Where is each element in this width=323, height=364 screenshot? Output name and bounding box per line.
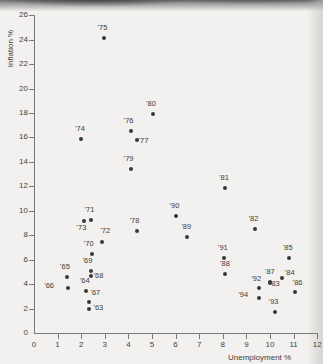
y-tick-label: 10: [12, 207, 28, 215]
data-point-label: '84: [285, 269, 295, 277]
data-point: [185, 235, 189, 239]
data-point-label: '63: [93, 304, 103, 312]
y-tick-mark: [29, 211, 34, 212]
x-tick-label: 2: [73, 341, 89, 349]
data-point-label: '93: [269, 298, 279, 306]
data-point: [87, 300, 91, 304]
data-point-label: '65: [60, 263, 70, 271]
y-tick-label: 0: [12, 329, 28, 337]
data-point: [82, 219, 86, 223]
y-tick-mark: [29, 309, 34, 310]
data-point-label: '94: [238, 291, 248, 299]
data-point-label: '80: [146, 100, 156, 108]
data-point-label: '90: [170, 202, 180, 210]
data-point-label: '70: [84, 240, 94, 248]
y-tick-label: 8: [12, 231, 28, 239]
data-point-label: '69: [83, 257, 93, 265]
y-tick-label: 12: [12, 182, 28, 190]
y-tick-label: 18: [12, 109, 28, 117]
data-point: [222, 256, 226, 260]
data-point-label: '92: [251, 275, 261, 283]
x-tick-label: 7: [191, 341, 207, 349]
y-tick-mark: [29, 260, 34, 261]
data-point-label: '64: [80, 277, 90, 285]
data-point-label: '81: [219, 174, 229, 182]
x-tick-mark: [294, 334, 295, 339]
x-tick-label: 12: [309, 341, 323, 349]
y-axis-line: [34, 15, 35, 334]
data-point-label: '67: [90, 289, 100, 297]
x-tick-label: 11: [286, 341, 302, 349]
x-tick-mark: [58, 334, 59, 339]
data-point: [89, 269, 93, 273]
y-tick-label: 14: [12, 158, 28, 166]
y-tick-mark: [29, 15, 34, 16]
data-point-label: '79: [124, 155, 134, 163]
x-tick-mark: [317, 334, 318, 339]
y-tick-mark: [29, 137, 34, 138]
data-point-label: '91: [218, 244, 228, 252]
x-tick-mark: [152, 334, 153, 339]
x-tick-mark: [223, 334, 224, 339]
data-point: [287, 256, 291, 260]
x-tick-label: 8: [215, 341, 231, 349]
x-tick-label: 4: [120, 341, 136, 349]
data-point-label: '72: [100, 227, 110, 235]
data-point: [257, 286, 261, 290]
y-tick-label: 6: [12, 256, 28, 264]
x-tick-mark: [199, 334, 200, 339]
data-point: [273, 310, 277, 314]
data-point: [280, 276, 284, 280]
x-tick-label: 0: [26, 341, 42, 349]
data-point: [129, 167, 133, 171]
y-tick-label: 2: [12, 305, 28, 313]
data-point-label: '89: [181, 223, 191, 231]
x-tick-mark: [270, 334, 271, 339]
x-tick-mark: [81, 334, 82, 339]
data-point-label: '66: [44, 282, 54, 290]
x-tick-mark: [105, 334, 106, 339]
data-point: [223, 272, 227, 276]
data-point: [89, 218, 93, 222]
x-tick-label: 5: [144, 341, 160, 349]
data-point: [223, 186, 227, 190]
x-tick-label: 9: [238, 341, 254, 349]
x-tick-mark: [246, 334, 247, 339]
data-point: [87, 307, 91, 311]
x-tick-label: 1: [50, 341, 66, 349]
y-tick-mark: [29, 40, 34, 41]
x-axis-title: Unemployment %: [228, 353, 291, 362]
data-point-label: '76: [124, 117, 134, 125]
y-tick-mark: [29, 162, 34, 163]
x-tick-mark: [176, 334, 177, 339]
x-tick-label: 3: [97, 341, 113, 349]
x-tick-mark: [128, 334, 129, 339]
data-point: [100, 240, 104, 244]
data-point-label: '75: [98, 24, 108, 32]
data-point: [253, 227, 257, 231]
data-point: [84, 289, 88, 293]
data-point-label: '82: [249, 215, 259, 223]
y-tick-mark: [29, 235, 34, 236]
y-tick-mark: [29, 186, 34, 187]
y-tick-mark: [29, 64, 34, 65]
data-point: [129, 129, 133, 133]
scatter-plot: 02468101214161820222426 0123456789101112…: [0, 0, 323, 364]
y-tick-mark: [29, 284, 34, 285]
data-point: [65, 275, 69, 279]
data-point-label: '71: [85, 206, 95, 214]
y-tick-mark: [29, 113, 34, 114]
y-tick-label: 20: [12, 85, 28, 93]
data-point: [66, 286, 70, 290]
x-tick-label: 6: [168, 341, 184, 349]
data-point: [174, 214, 178, 218]
data-point: [257, 296, 261, 300]
data-point-label: '88: [220, 260, 230, 268]
data-point-label: '73: [77, 224, 87, 232]
data-point-label: '85: [283, 244, 293, 252]
data-point: [102, 36, 106, 40]
data-point-label: '78: [130, 217, 140, 225]
data-point-label: '74: [75, 125, 85, 133]
data-point: [151, 112, 155, 116]
data-point: [293, 290, 297, 294]
